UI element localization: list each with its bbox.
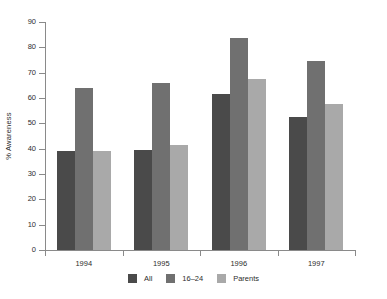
bar-1994-16–24 <box>75 88 93 250</box>
y-axis-tick-label: 20 <box>0 196 36 204</box>
x-axis-label-1995: 1995 <box>153 259 170 268</box>
bar-1996-Parents <box>248 79 266 250</box>
x-axis-tick <box>45 251 46 256</box>
legend-swatch-icon <box>128 274 137 283</box>
y-axis-tick-label: 50 <box>0 120 36 128</box>
y-axis-tick-label: 0 <box>0 246 36 254</box>
y-axis-tick-label: 40 <box>0 145 36 153</box>
bar-1996-16–24 <box>230 38 248 250</box>
x-axis-tick <box>355 251 356 256</box>
bar-1994-All <box>57 151 75 250</box>
legend-label: All <box>144 274 152 283</box>
x-axis-tick <box>200 251 201 256</box>
legend-item-All[interactable]: All <box>128 274 152 283</box>
y-axis-tick-label: 70 <box>0 69 36 77</box>
y-axis-tick-label: 80 <box>0 44 36 52</box>
y-axis-tick-label: 30 <box>0 170 36 178</box>
legend-label: 16–24 <box>182 274 203 283</box>
bar-1995-All <box>134 150 152 250</box>
legend-swatch-icon <box>166 274 175 283</box>
x-axis-label-1994: 1994 <box>75 259 92 268</box>
y-axis-tick-label: 10 <box>0 221 36 229</box>
y-axis-tick-label: 60 <box>0 94 36 102</box>
bar-1995-16–24 <box>152 83 170 250</box>
legend-item-Parents[interactable]: Parents <box>217 274 259 283</box>
x-axis-tick <box>123 251 124 256</box>
legend-label: Parents <box>233 274 259 283</box>
x-axis-label-1996: 1996 <box>230 259 247 268</box>
bar-1997-All <box>289 117 307 250</box>
bar-1997-Parents <box>325 104 343 250</box>
y-axis-tick-label: 90 <box>0 18 36 26</box>
chart-legend: All16–24Parents <box>0 274 387 283</box>
legend-swatch-icon <box>217 274 226 283</box>
bar-chart: % Awareness 0102030405060708090 19941995… <box>0 0 387 299</box>
bar-1997-16–24 <box>307 61 325 250</box>
x-axis-label-1997: 1997 <box>308 259 325 268</box>
bar-1994-Parents <box>93 151 111 250</box>
x-axis-tick <box>278 251 279 256</box>
bar-1996-All <box>212 94 230 250</box>
plot-area <box>45 22 355 250</box>
legend-item-16–24[interactable]: 16–24 <box>166 274 203 283</box>
bar-1995-Parents <box>170 145 188 250</box>
